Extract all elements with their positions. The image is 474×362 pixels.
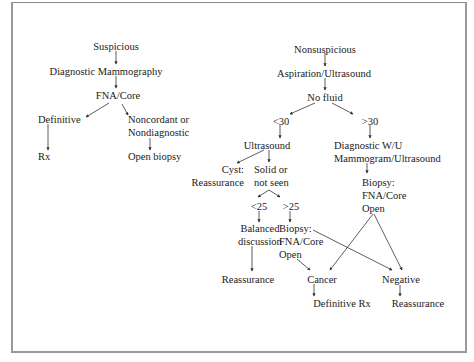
node-balanced-discussion: Balanced discussion (238, 222, 282, 248)
node-fna-core: FNA/Core (96, 89, 140, 102)
node-solid-line1: Solid or (254, 163, 289, 176)
node-nonsuspicious: Nonsuspicious (294, 43, 356, 56)
node-solid: Solid or not seen (254, 163, 289, 189)
node-cyst-line1: Cyst: (192, 163, 244, 176)
node-biopsy-right-line2: FNA/Core (362, 189, 406, 202)
node-biopsy-right-line3: Open (362, 202, 406, 215)
node-no-fluid: No fluid (307, 91, 342, 104)
node-lt30: <30 (273, 115, 289, 128)
node-diagnostic-wu-line2: Mammogram/Ultrasound (334, 152, 441, 165)
node-balanced-line1: Balanced (238, 222, 282, 235)
node-biopsy-mid: Biopsy: FNA/Core Open (279, 222, 323, 261)
node-diagnostic-wu: Diagnostic W/U Mammogram/Ultrasound (334, 139, 441, 165)
node-suspicious: Suspicious (93, 40, 139, 53)
node-solid-line2: not seen (254, 176, 289, 189)
node-ultrasound: Ultrasound (244, 139, 291, 152)
node-gt30: >30 (362, 115, 378, 128)
node-cancer: Cancer (307, 273, 337, 286)
node-noncordant-line2: Nondiagnostic (128, 126, 189, 139)
node-lt25: <25 (251, 200, 267, 213)
node-diagnostic-wu-line1: Diagnostic W/U (334, 139, 441, 152)
node-diagnostic-mammography: Diagnostic Mammography (50, 65, 163, 78)
node-definitive: Definitive (38, 113, 81, 126)
node-cyst-line2: Reassurance (192, 176, 244, 189)
node-biopsy-right-line1: Biopsy: (362, 176, 406, 189)
node-aspiration-ultrasound: Aspiration/Ultrasound (277, 67, 371, 80)
node-biopsy-mid-line1: Biopsy: (279, 222, 323, 235)
node-balanced-line2: discussion (238, 235, 282, 248)
node-cyst: Cyst: Reassurance (192, 163, 244, 189)
node-open-biopsy: Open biopsy (128, 150, 181, 163)
node-negative: Negative (382, 273, 420, 286)
node-reassurance-right: Reassurance (392, 297, 444, 310)
node-rx: Rx (38, 150, 50, 163)
node-noncordant-line1: Noncordant or (128, 113, 189, 126)
node-reassurance-left: Reassurance (222, 273, 274, 286)
node-biopsy-right: Biopsy: FNA/Core Open (362, 176, 406, 215)
node-noncordant: Noncordant or Nondiagnostic (128, 113, 189, 139)
node-gt25: >25 (283, 200, 299, 213)
node-biopsy-mid-line2: FNA/Core (279, 235, 323, 248)
node-definitive-rx: Definitive Rx (313, 297, 370, 310)
node-biopsy-mid-line3: Open (279, 248, 323, 261)
